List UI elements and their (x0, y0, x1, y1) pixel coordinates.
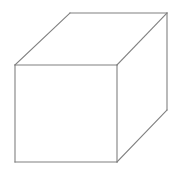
figure-canvas (0, 0, 178, 174)
cube-faces-group (15, 13, 167, 162)
cube-face-front (15, 65, 117, 162)
cube-diagram (0, 0, 178, 174)
